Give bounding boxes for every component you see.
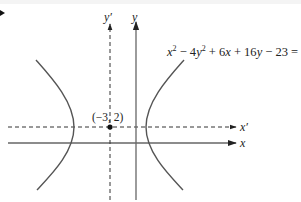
hyperbola-right-branch [146, 60, 184, 190]
center-point [107, 124, 112, 129]
eq-op-1: − 4 [177, 45, 197, 59]
hyperbola-left-branch [36, 60, 74, 190]
eq-rest: − 23 = 0 [262, 45, 301, 59]
center-point-label: (−3, 2) [92, 112, 123, 124]
x-axis-label: x [240, 137, 245, 149]
eq-op-3: + 16 [231, 45, 257, 59]
y-axis-label: y [132, 11, 137, 23]
x-prime-axis-label: x′ [240, 121, 248, 133]
eq-op-2: + 6 [206, 45, 226, 59]
hyperbola-equation: x2 − 4y2 + 6x + 16y − 23 = 0 [167, 46, 301, 59]
y-prime-axis-label: y′ [104, 11, 112, 23]
corner-arrow-icon [0, 10, 5, 16]
hyperbola-diagram [0, 0, 301, 202]
